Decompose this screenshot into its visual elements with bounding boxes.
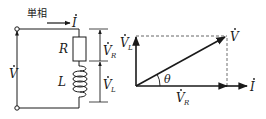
svg-text:R: R xyxy=(110,52,117,60)
single-phase-label: 単相 xyxy=(27,7,47,19)
svg-text:I: I xyxy=(71,16,77,30)
vl-label-phasor: V L xyxy=(120,34,133,52)
svg-text:V: V xyxy=(9,67,19,81)
vr-label-circuit: V R xyxy=(103,42,117,60)
top-terminal xyxy=(15,27,19,31)
v-label-phasor: V xyxy=(230,28,240,44)
svg-text:I: I xyxy=(249,80,255,94)
svg-text:R: R xyxy=(183,99,190,107)
resistor xyxy=(73,37,86,61)
top-wire xyxy=(19,29,79,37)
source-voltage-label: V xyxy=(9,65,19,81)
vl-label-circuit: V L xyxy=(103,76,116,94)
theta-label: θ xyxy=(164,73,171,86)
inductor-label: L xyxy=(57,75,66,89)
theta-arc xyxy=(157,74,160,86)
circuit: 単相 I V R xyxy=(9,7,117,110)
phasor-diagram: θ V L V V R I xyxy=(120,28,255,107)
v-vector xyxy=(136,37,225,86)
vr-label-phasor: V R xyxy=(176,89,190,107)
svg-text:L: L xyxy=(127,44,133,52)
current-label-circuit: I xyxy=(71,14,77,30)
resistor-label: R xyxy=(58,42,68,56)
bottom-wire xyxy=(19,97,79,108)
inductor xyxy=(73,66,87,97)
svg-text:V: V xyxy=(230,30,240,44)
svg-text:L: L xyxy=(110,86,116,94)
bottom-terminal xyxy=(15,106,19,110)
current-label-phasor: I xyxy=(249,78,255,94)
rl-circuit-phasor-diagram: 単相 I V R xyxy=(0,0,266,119)
